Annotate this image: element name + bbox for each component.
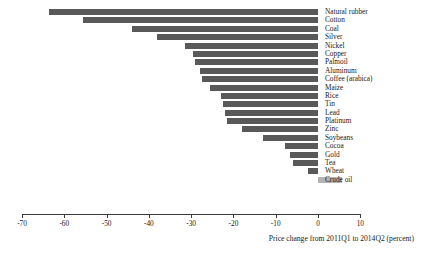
bar-row xyxy=(22,67,318,75)
bar-row xyxy=(22,109,318,117)
x-axis-tick xyxy=(191,214,192,218)
bar-row xyxy=(22,151,318,159)
commodity-price-change-chart: Natural rubberCottonCoalSilverNickelCopp… xyxy=(0,0,434,258)
bar-row xyxy=(22,117,318,125)
bar-tin xyxy=(223,101,318,107)
category-label: Gold xyxy=(325,151,433,159)
x-axis-tick xyxy=(107,214,108,218)
bar-row xyxy=(22,142,318,150)
x-axis-tick-label: -30 xyxy=(186,219,196,228)
category-label: Maize xyxy=(325,84,433,92)
bar-gold xyxy=(290,152,318,158)
bar-row xyxy=(22,176,318,184)
x-axis-tick-label: -50 xyxy=(102,219,112,228)
x-axis-tick-label: 10 xyxy=(357,219,364,228)
bar-silver xyxy=(157,34,318,40)
bar-row xyxy=(22,42,318,50)
x-axis-title: Price change from 2011Q1 to 2014Q2 (perc… xyxy=(0,234,414,243)
bar-natural-rubber xyxy=(49,9,318,15)
bar-nickel xyxy=(185,43,318,49)
x-axis-tick xyxy=(64,214,65,218)
bar-row xyxy=(22,58,318,66)
bar-row xyxy=(22,159,318,167)
x-axis-tick-label: -40 xyxy=(144,219,154,228)
bar-maize xyxy=(210,85,318,91)
bar-tea xyxy=(293,160,318,166)
bar-row xyxy=(22,92,318,100)
category-label: Crude oil xyxy=(325,176,433,184)
bar-aluminum xyxy=(200,68,318,74)
x-axis-tick-label: -60 xyxy=(59,219,69,228)
bar-cocoa xyxy=(285,143,318,149)
x-axis-tick xyxy=(276,214,277,218)
bar-row xyxy=(22,75,318,83)
bar-coffee-arabica xyxy=(202,76,318,82)
bar-row xyxy=(22,167,318,175)
bar-zinc xyxy=(242,126,318,132)
bar-cotton xyxy=(83,17,318,23)
x-axis-tick-label: -10 xyxy=(271,219,281,228)
bar-row xyxy=(22,8,318,16)
bar-row xyxy=(22,50,318,58)
category-label: Rice xyxy=(325,92,433,100)
x-axis-tick-label: -20 xyxy=(229,219,239,228)
bar-palmoil xyxy=(195,59,318,65)
plot-area xyxy=(22,8,318,210)
x-axis: -70-60-50-40-30-20-10010 xyxy=(22,214,318,220)
x-axis-tick xyxy=(318,214,319,218)
bar-row xyxy=(22,25,318,33)
x-axis-tick xyxy=(233,214,234,218)
bar-row xyxy=(22,134,318,142)
bar-row xyxy=(22,100,318,108)
bar-row xyxy=(22,16,318,24)
bar-platinum xyxy=(227,118,318,124)
bar-rice xyxy=(221,93,318,99)
bar-coal xyxy=(132,26,318,32)
bar-wheat xyxy=(308,168,318,174)
category-label: Cotton xyxy=(325,16,433,24)
bar-row xyxy=(22,125,318,133)
category-label-column: Natural rubberCottonCoalSilverNickelCopp… xyxy=(325,8,433,210)
category-label: Platinum xyxy=(325,117,433,125)
bar-lead xyxy=(225,110,318,116)
bar-row xyxy=(22,33,318,41)
x-axis-tick-label: -70 xyxy=(17,219,27,228)
category-label: Cocoa xyxy=(325,142,433,150)
category-label: Tin xyxy=(325,100,433,108)
x-axis-tick xyxy=(149,214,150,218)
x-axis-tick-label: 0 xyxy=(316,219,320,228)
x-axis-tick xyxy=(22,214,23,218)
bar-copper xyxy=(193,51,318,57)
bar-row xyxy=(22,84,318,92)
bar-soybeans xyxy=(263,135,318,141)
x-axis-tick xyxy=(360,214,361,218)
